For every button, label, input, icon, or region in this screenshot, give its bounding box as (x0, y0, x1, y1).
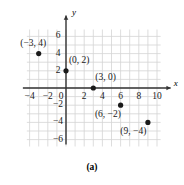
y-axis-label: y (72, 8, 76, 17)
coordinate-grid-svg (0, 0, 184, 160)
x-tick-label: 8 (136, 92, 141, 102)
y-tick-label: 6 (56, 32, 61, 42)
y-tick-label: 4 (56, 49, 61, 59)
x-axis-label: x (174, 79, 178, 88)
data-point (36, 51, 41, 56)
point-coordinate-label: (6, −2) (95, 110, 121, 120)
x-tick-label: −2 (43, 92, 53, 102)
data-point (91, 85, 96, 90)
plot-area: −4−20246810642−2−4−6 (−3, 4)(0, 2)(3, 0)… (0, 0, 184, 160)
x-tick-label: 6 (118, 92, 123, 102)
x-tick-label: 10 (152, 92, 162, 102)
point-coordinate-label: (3, 0) (95, 73, 116, 83)
x-tick-label: 2 (82, 92, 87, 102)
y-tick-label: 2 (56, 66, 61, 76)
data-point (145, 120, 150, 125)
x-tick-label: −4 (25, 92, 35, 102)
point-coordinate-label: (9, −4) (120, 128, 146, 138)
point-coordinate-label: (0, 2) (69, 56, 90, 66)
x-tick-label: 4 (100, 92, 105, 102)
y-tick-label: −2 (53, 100, 63, 110)
point-coordinate-label: (−3, 4) (20, 39, 46, 49)
coordinate-plane-figure: −4−20246810642−2−4−6 (−3, 4)(0, 2)(3, 0)… (0, 0, 184, 185)
figure-caption: (a) (0, 162, 184, 172)
y-tick-label: −6 (53, 135, 63, 145)
y-tick-label: −4 (53, 118, 63, 128)
data-point (63, 68, 68, 73)
data-point (118, 103, 123, 108)
